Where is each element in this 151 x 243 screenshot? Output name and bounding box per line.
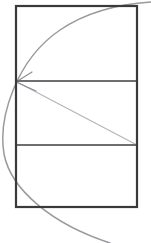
construction-diagram [0, 0, 151, 243]
figure-canvas [0, 0, 151, 243]
